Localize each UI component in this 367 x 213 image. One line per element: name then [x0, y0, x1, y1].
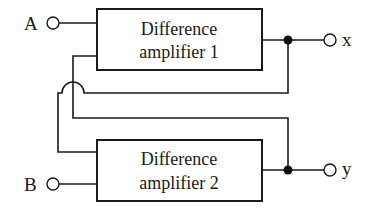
input-a-terminal — [47, 17, 59, 29]
output-x-label: x — [342, 29, 352, 50]
input-a-label: A — [24, 13, 38, 34]
cross-coupled-amplifier-diagram: A B Difference amplifier 1 Difference am… — [0, 0, 367, 213]
amp2-label-line2: amplifier 2 — [139, 173, 218, 193]
amp1-label-line2: amplifier 1 — [139, 42, 218, 62]
amp1-label-line1: Difference — [141, 19, 218, 39]
junction-x — [284, 36, 293, 45]
output-y-label: y — [342, 158, 352, 179]
output-y-terminal — [324, 164, 336, 176]
amp2-label-line1: Difference — [141, 149, 218, 169]
input-b-label: B — [24, 174, 37, 195]
input-b-terminal — [47, 178, 59, 190]
output-x-terminal — [324, 34, 336, 46]
junction-y — [284, 166, 293, 175]
